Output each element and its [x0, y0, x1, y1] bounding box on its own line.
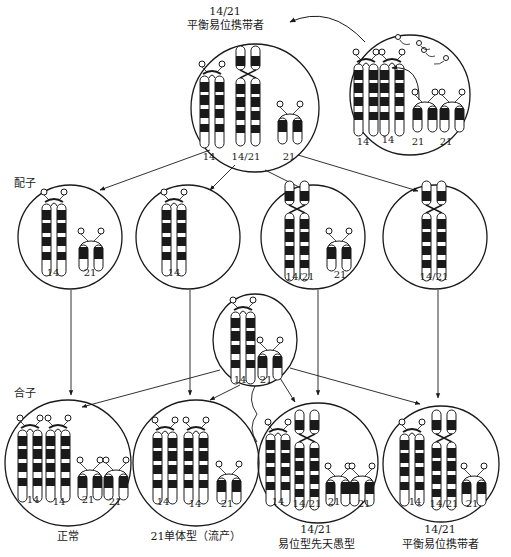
chromosome-label: 14	[27, 495, 40, 505]
chromosome-label: 21	[283, 152, 296, 162]
chromosome-label: 21	[328, 497, 341, 507]
chromosome-label: 21	[221, 499, 234, 509]
chromosome-label: 21	[334, 270, 347, 280]
chromosome-label: 21	[412, 137, 425, 147]
chromosome-label: 14	[168, 268, 181, 278]
chromosome-label: 14	[272, 497, 285, 507]
chromosome-label: 14/21	[430, 499, 459, 509]
curved-arrow	[290, 16, 365, 42]
zygote-row-label: 合子	[14, 388, 36, 400]
chromosome-label: 14	[357, 137, 370, 147]
chromosome-label: 21	[466, 499, 479, 509]
chromosome-label: 14/21	[293, 499, 322, 509]
chromosome-label: 21	[84, 268, 97, 278]
gamete-cell-1	[18, 185, 122, 289]
chromosome-label: 14/21	[286, 272, 315, 282]
chromosome-label: 14	[234, 375, 247, 385]
chromosome-label: 14	[189, 499, 202, 509]
chromosome-label: 14	[47, 268, 60, 278]
gamete-cell-2	[136, 185, 240, 289]
chromosome-label: 14	[409, 497, 422, 507]
title-carrier-label: 平衡易位携带者	[187, 20, 264, 32]
gamete-row-label: 配子	[14, 178, 36, 190]
chromosome-label: 14/21	[232, 152, 261, 162]
chromosome-label: 21	[440, 137, 453, 147]
outcome-karyotype-carrier: 14/21	[424, 524, 456, 536]
chromosome-label: 21	[109, 497, 122, 507]
outcome-translocation-down: 易位型先天愚型	[278, 539, 355, 551]
outcome-balanced-carrier: 平衡易位携带者	[402, 539, 479, 551]
chromosome-label: 21	[358, 499, 371, 509]
chromosome-label: 14	[382, 135, 395, 145]
title-karyotype: 14/21	[209, 6, 241, 18]
zygote-cell-normal	[5, 400, 131, 526]
chromosome-label: 14	[157, 497, 170, 507]
chromosome-label: 14	[53, 497, 66, 507]
chromosome-label: 14	[203, 152, 216, 162]
partner-gamete-cell	[213, 294, 297, 386]
outcome-normal: 正常	[57, 531, 79, 543]
outcome-monosomy: 21单体型（流产）	[151, 531, 242, 543]
chromosome-label: 14/21	[420, 272, 449, 282]
chromosome-label: 21	[82, 495, 95, 505]
outcome-karyotype-down: 14/21	[300, 524, 332, 536]
chromosome-label: 21	[260, 375, 273, 385]
